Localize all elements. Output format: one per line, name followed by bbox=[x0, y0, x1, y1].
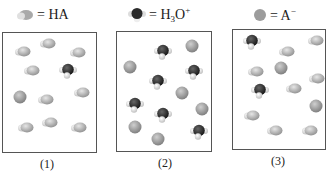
panel-2-label: (2) bbox=[145, 156, 185, 171]
ha-molecule-icon bbox=[302, 126, 318, 136]
ha-molecule-icon bbox=[42, 118, 58, 128]
ha-molecule-icon bbox=[286, 84, 302, 94]
ha-molecule-icon bbox=[74, 88, 90, 98]
hydronium-molecule-icon bbox=[190, 125, 208, 140]
hydronium-molecule-icon bbox=[126, 98, 144, 113]
ha-molecule-icon bbox=[24, 66, 40, 76]
legend-anion: = A− bbox=[253, 6, 296, 24]
ha-molecule-icon bbox=[70, 48, 86, 58]
anion-sphere-icon bbox=[253, 8, 267, 22]
ha-molecule-icon bbox=[267, 126, 283, 136]
ha-molecule-icon bbox=[279, 47, 295, 57]
ha-molecule-icon bbox=[16, 9, 34, 21]
hydronium-molecule-icon bbox=[154, 45, 172, 60]
legend-h3o-label: = H3O+ bbox=[149, 5, 190, 24]
ha-molecule-icon bbox=[309, 74, 325, 84]
anion-sphere-icon bbox=[129, 121, 142, 134]
panel-1 bbox=[2, 32, 97, 153]
anion-sphere-icon bbox=[186, 40, 199, 53]
hydronium-molecule-icon bbox=[154, 108, 172, 123]
hydronium-molecule-icon bbox=[59, 64, 77, 79]
ha-molecule-icon bbox=[18, 123, 34, 133]
ha-molecule-icon bbox=[40, 39, 56, 49]
ha-molecule-icon bbox=[308, 36, 324, 46]
panel-1-label: (1) bbox=[27, 157, 67, 172]
anion-sphere-icon bbox=[196, 103, 209, 116]
panel-2 bbox=[116, 31, 212, 152]
legend-anion-label: = A− bbox=[270, 6, 296, 24]
ha-molecule-icon bbox=[71, 123, 87, 133]
hydronium-molecule-icon bbox=[149, 75, 167, 90]
hydronium-molecule-icon bbox=[185, 65, 203, 80]
legend-h3o: = H3O+ bbox=[128, 6, 190, 24]
panel-3 bbox=[232, 29, 326, 150]
hydronium-molecule-icon bbox=[251, 84, 269, 99]
ha-molecule-icon bbox=[244, 111, 260, 121]
anion-sphere-icon bbox=[14, 91, 27, 104]
ha-molecule-icon bbox=[15, 47, 31, 57]
anion-sphere-icon bbox=[275, 62, 288, 75]
legend-ha-label: = HA bbox=[37, 7, 69, 23]
anion-sphere-icon bbox=[310, 100, 323, 113]
anion-sphere-icon bbox=[124, 61, 137, 74]
anion-sphere-icon bbox=[176, 87, 189, 100]
ha-molecule-icon bbox=[38, 95, 54, 105]
panel-3-label: (3) bbox=[258, 154, 298, 169]
hydronium-molecule-icon bbox=[243, 35, 261, 50]
hydronium-molecule-icon bbox=[128, 7, 146, 23]
legend-ha: = HA bbox=[16, 6, 69, 24]
anion-sphere-icon bbox=[152, 133, 165, 146]
ha-molecule-icon bbox=[248, 67, 264, 77]
